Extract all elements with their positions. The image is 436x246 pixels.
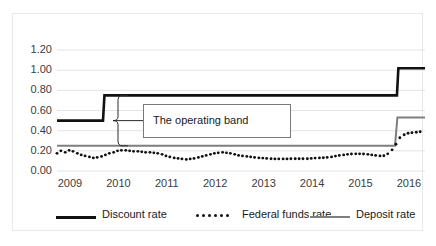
data-point xyxy=(120,149,123,152)
data-point xyxy=(88,155,91,158)
legend-dot xyxy=(202,214,205,217)
data-point xyxy=(104,153,107,156)
data-point xyxy=(398,136,401,139)
data-point xyxy=(205,154,208,157)
data-point xyxy=(403,133,406,136)
data-point xyxy=(354,152,357,155)
data-point xyxy=(257,156,260,159)
data-point xyxy=(289,157,292,160)
legend-dot xyxy=(220,214,223,217)
legend-label: Discount rate xyxy=(102,208,167,220)
data-point xyxy=(108,152,111,155)
data-point xyxy=(265,157,268,160)
data-point xyxy=(168,155,171,158)
data-point xyxy=(314,157,317,160)
data-point xyxy=(282,157,285,160)
data-point xyxy=(189,157,192,160)
legend-swatch-line xyxy=(56,216,96,219)
data-point xyxy=(370,153,373,156)
data-point xyxy=(374,154,377,157)
legend-dot xyxy=(214,214,217,217)
x-tick-label: 2011 xyxy=(144,177,190,189)
y-tick-label: 0.20 xyxy=(18,144,52,156)
data-point xyxy=(249,155,252,158)
data-point xyxy=(379,154,382,157)
data-point xyxy=(298,157,301,160)
legend-swatch-line xyxy=(310,216,350,218)
data-point xyxy=(221,151,224,154)
data-point xyxy=(217,151,220,154)
data-point xyxy=(310,157,313,160)
data-point xyxy=(410,131,413,134)
data-point xyxy=(152,151,155,154)
data-point xyxy=(185,158,188,161)
x-tick-label: 2009 xyxy=(47,177,93,189)
data-point xyxy=(237,154,240,157)
x-tick-label: 2013 xyxy=(241,177,287,189)
data-point xyxy=(273,157,276,160)
y-tick-label: 0.80 xyxy=(18,83,52,95)
data-point xyxy=(156,152,159,155)
data-point xyxy=(124,149,127,152)
x-tick-label: 2012 xyxy=(192,177,238,189)
legend-label: Deposit rate xyxy=(356,208,415,220)
data-point xyxy=(180,157,183,160)
legend-dot xyxy=(226,214,229,217)
data-point xyxy=(197,156,200,159)
data-point xyxy=(92,156,95,159)
data-point xyxy=(338,154,341,157)
data-point xyxy=(100,155,103,158)
data-point xyxy=(270,157,273,160)
legend-label: Federal funds rate xyxy=(242,208,331,220)
data-point xyxy=(286,157,289,160)
y-tick-label: 1.20 xyxy=(18,43,52,55)
data-point xyxy=(366,153,369,156)
y-tick-label: 0.40 xyxy=(18,124,52,136)
data-point xyxy=(59,149,62,152)
data-point xyxy=(56,152,59,155)
y-tick-label: 0.60 xyxy=(18,104,52,116)
legend-dot xyxy=(196,214,199,217)
data-point xyxy=(144,151,147,154)
data-point xyxy=(173,156,176,159)
data-point xyxy=(209,153,212,156)
data-point xyxy=(326,156,329,159)
data-point xyxy=(394,143,397,146)
data-point xyxy=(318,156,321,159)
data-point xyxy=(346,153,349,156)
annotation-bracket xyxy=(113,95,143,145)
data-point xyxy=(350,153,353,156)
data-point xyxy=(96,156,99,159)
legend-dot xyxy=(208,214,211,217)
data-point xyxy=(149,151,152,154)
operating-band-label: The operating band xyxy=(153,114,248,126)
data-point xyxy=(193,157,196,160)
data-point xyxy=(302,157,305,160)
data-point xyxy=(407,132,410,135)
x-tick-label: 2015 xyxy=(338,177,384,189)
data-point xyxy=(177,157,180,160)
data-point xyxy=(76,152,79,155)
data-point xyxy=(330,155,333,158)
data-point xyxy=(261,157,264,160)
data-point xyxy=(161,153,164,156)
data-point xyxy=(116,149,119,152)
data-point xyxy=(391,148,394,151)
data-point xyxy=(84,154,87,157)
data-point xyxy=(225,151,228,154)
data-point xyxy=(112,151,115,154)
data-point xyxy=(342,153,345,156)
data-point xyxy=(362,153,365,156)
x-tick-label: 2010 xyxy=(95,177,141,189)
data-point xyxy=(253,156,256,159)
data-point xyxy=(128,149,131,152)
data-point xyxy=(80,153,83,156)
x-tick-label: 2014 xyxy=(289,177,335,189)
data-point xyxy=(233,153,236,156)
data-point xyxy=(245,155,248,158)
data-point xyxy=(164,154,167,157)
data-point xyxy=(358,152,361,155)
data-point xyxy=(140,150,143,153)
data-point xyxy=(415,131,418,134)
chart-figure: 0.000.200.400.600.801.001.20 20092010201… xyxy=(0,0,436,246)
